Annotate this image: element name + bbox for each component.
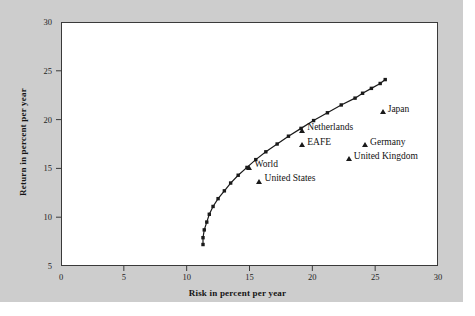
y-tick-label: 30 <box>30 17 52 27</box>
y-tick-label: 15 <box>30 163 52 173</box>
frontier-line <box>203 80 385 245</box>
frontier-point-marker <box>353 96 356 99</box>
frontier-point-marker <box>201 243 204 246</box>
asset-marker <box>246 165 252 170</box>
figure-container: 05101520253051015202530 JapanNetherlands… <box>0 0 475 316</box>
axis-ticks <box>56 71 375 271</box>
frontier-point-marker <box>384 78 387 81</box>
frontier-point-marker <box>201 236 204 239</box>
asset-label: United States <box>265 173 316 183</box>
frontier-point-marker <box>378 82 381 85</box>
frontier-point-marker <box>264 150 267 153</box>
frontier-point-marker <box>223 189 226 192</box>
asset-marker <box>380 109 386 114</box>
asset-marker <box>256 179 262 184</box>
asset-marker <box>362 142 368 147</box>
y-tick-label: 5 <box>30 261 52 271</box>
asset-label: Japan <box>388 104 410 114</box>
frontier-point-marker <box>340 103 343 106</box>
x-tick-label: 5 <box>112 272 136 282</box>
asset-marker <box>346 156 352 161</box>
asset-label: Germany <box>370 137 405 147</box>
frontier-point-marker <box>216 197 219 200</box>
y-axis-title: Return in percent per year <box>18 72 28 212</box>
efficient-frontier-series <box>201 78 387 246</box>
y-tick-label: 20 <box>30 115 52 125</box>
x-tick-label: 20 <box>300 272 324 282</box>
frontier-point-marker <box>203 228 206 231</box>
asset-marker <box>299 128 305 133</box>
y-tick-label: 25 <box>30 66 52 76</box>
x-tick-label: 25 <box>363 272 387 282</box>
x-tick-label: 15 <box>238 272 262 282</box>
asset-marker <box>299 142 305 147</box>
x-tick-label: 10 <box>175 272 199 282</box>
x-tick-label: 0 <box>49 272 73 282</box>
asset-label: United Kingdom <box>354 151 418 161</box>
frontier-point-marker <box>361 92 364 95</box>
frontier-point-marker <box>287 134 290 137</box>
frontier-point-marker <box>370 87 373 90</box>
frontier-point-marker <box>275 142 278 145</box>
y-tick-label: 10 <box>30 212 52 222</box>
frontier-point-marker <box>236 174 239 177</box>
frontier-point-marker <box>205 220 208 223</box>
asset-label: EAFE <box>307 137 331 147</box>
x-axis-title: Risk in percent per year <box>0 288 475 298</box>
asset-label: World <box>255 159 279 169</box>
frontier-point-marker <box>211 205 214 208</box>
frontier-point-marker <box>208 213 211 216</box>
asset-label: Netherlands <box>307 122 353 132</box>
x-tick-label: 30 <box>426 272 450 282</box>
frontier-point-marker <box>326 111 329 114</box>
frontier-point-marker <box>229 181 232 184</box>
